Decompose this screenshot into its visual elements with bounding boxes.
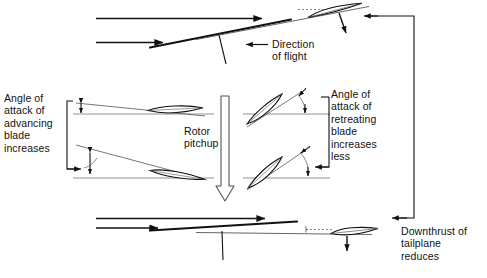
retreating-lower-airfoil-chord [248, 157, 282, 188]
top-tailplane-chord-line [308, 3, 362, 17]
label-direction-of-flight: Direction of flight [272, 38, 342, 63]
retreating-lower-aoa-arrow-a [301, 146, 310, 153]
bottom-rotor-mast [222, 231, 223, 260]
retreating-upper-airfoil-chord [247, 94, 282, 124]
retreating-label-bracket [318, 97, 329, 167]
retreating-lower-aoa-angle-arc [300, 152, 308, 176]
label-rotor-pitchup: Rotor pitchup [184, 125, 234, 150]
top-rotor-mast [219, 35, 226, 64]
retreating-upper-aoa-arrow-a [299, 88, 306, 96]
retreating-upper-chord-line [247, 89, 306, 127]
bottom-fuselage-upper-edge [150, 222, 297, 231]
rotor-pitchup-diagram: Angle of attack of advancing blade incre… [0, 0, 487, 278]
advancing-label-bracket [67, 101, 79, 169]
label-angle-of-attack-retreating: Angle of attack of retreating blade incr… [331, 88, 401, 162]
label-downthrust-of-tailplane: Downthrust of tailplane reduces [401, 225, 483, 262]
top-downthrust-arrow [339, 13, 346, 33]
label-angle-of-attack-advancing: Angle of attack of advancing blade incre… [4, 92, 68, 154]
bottom-aircraft-group [96, 219, 378, 261]
retreating-upper-aoa-angle-arc [298, 95, 305, 113]
